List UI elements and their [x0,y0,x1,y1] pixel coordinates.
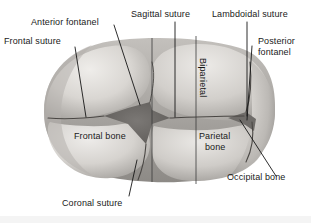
skull-illustration [0,0,311,223]
fetal-skull-figure: Anterior fontanel Frontal suture Sagitta… [0,0,311,223]
label-lambdoidal-suture: Lambdoidal suture [212,9,288,20]
label-biparietal: Biparietal [198,58,208,98]
label-frontal-suture: Frontal suture [4,36,61,47]
figure-bottom-band [0,216,311,223]
label-frontal-bone: Frontal bone [74,131,126,142]
label-parietal-bone-line1: Parietal [199,131,230,142]
label-posterior-fontanel-line2: fontanel [258,47,291,58]
label-parietal-bone-line2: bone [205,142,225,153]
skull-body [44,38,275,182]
label-occipital-bone: Occipital bone [227,172,285,183]
label-sagittal-suture: Sagittal suture [131,9,190,20]
label-posterior-fontanel-line1: Posterior [258,36,295,47]
label-anterior-fontanel: Anterior fontanel [31,17,99,28]
label-coronal-suture: Coronal suture [62,198,122,209]
